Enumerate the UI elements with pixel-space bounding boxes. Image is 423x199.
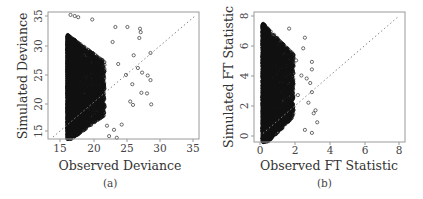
x-tick-label: 35 [186, 142, 199, 154]
scatter-plot-a: 15 20 25 30 35 15 20 25 30 35 Observed D… [0, 0, 210, 199]
y-ticks-b: 0 2 4 6 8 [238, 13, 254, 140]
x-tick-label: 2 [292, 144, 299, 156]
x-tick-label: 30 [153, 142, 166, 154]
scatter-plot-b: 0 2 4 6 8 0 2 4 6 8 Observed FT Statisti… [210, 0, 423, 199]
x-tick-label: 6 [362, 144, 369, 156]
x-tick-label: 15 [53, 142, 66, 154]
panel-a-deviance: 15 20 25 30 35 15 20 25 30 35 Observed D… [0, 0, 210, 199]
y-tick-label: 15 [32, 124, 44, 137]
x-axis-title-b: Observed FT Statistic [260, 158, 398, 173]
y-tick-label: 20 [32, 97, 44, 110]
x-tick-label: 4 [327, 144, 334, 156]
y-tick-label: 0 [238, 133, 250, 140]
x-tick-label: 25 [120, 142, 133, 154]
y-ticks-a: 15 20 25 30 35 [32, 9, 48, 137]
y-axis-title-a: Simulated Deviance [15, 13, 30, 140]
y-tick-label: 25 [32, 68, 44, 81]
y-tick-label: 35 [32, 9, 44, 22]
x-tick-label: 8 [396, 144, 403, 156]
x-ticks-a: 15 20 25 30 35 [53, 139, 199, 154]
x-ticks-b: 0 2 4 6 8 [257, 142, 403, 156]
y-tick-label: 30 [32, 39, 44, 52]
x-tick-label: 20 [87, 142, 100, 154]
y-axis-title-b: Simulated FT Statistic [221, 6, 236, 148]
y-tick-label: 4 [238, 72, 250, 79]
x-axis-title-a: Observed Deviance [59, 158, 182, 173]
scatter-points-b [261, 22, 319, 143]
caption-a: (a) [103, 177, 117, 189]
y-tick-label: 2 [238, 103, 250, 110]
panel-b-ft-statistic: 0 2 4 6 8 0 2 4 6 8 Observed FT Statisti… [210, 0, 423, 199]
y-tick-label: 6 [238, 42, 250, 49]
y-tick-label: 8 [238, 13, 250, 20]
scatter-points-a [66, 13, 153, 140]
x-tick-label: 0 [257, 144, 264, 156]
caption-b: (b) [317, 177, 332, 189]
